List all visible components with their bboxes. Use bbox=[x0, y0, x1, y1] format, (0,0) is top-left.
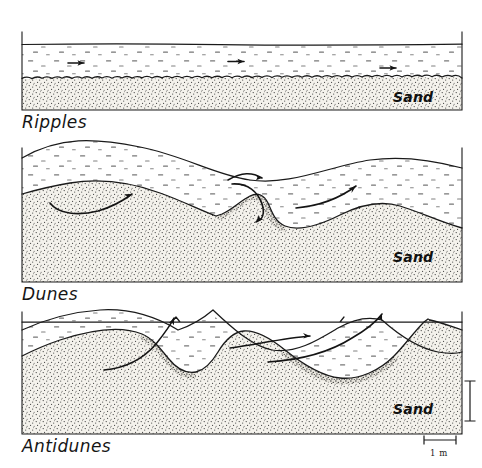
panel-antidunes: Sand Antidunes bbox=[21, 310, 462, 456]
panel-label-dunes: Dunes bbox=[22, 284, 78, 304]
panel-label-antidunes: Antidunes bbox=[21, 436, 111, 456]
ripples-sand-label: Sand bbox=[393, 89, 434, 105]
bedform-diagram: Sand Ripples bbox=[0, 0, 482, 468]
scale-bar-label: 1 m bbox=[430, 448, 448, 458]
antidunes-sand-label: Sand bbox=[393, 401, 434, 417]
panel-label-ripples: Ripples bbox=[22, 112, 87, 132]
dunes-sand-label: Sand bbox=[393, 249, 434, 265]
